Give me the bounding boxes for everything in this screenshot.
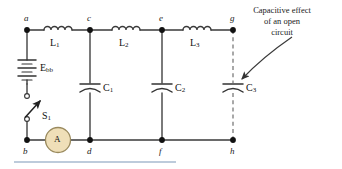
annotation-line-2: of an open <box>222 16 342 27</box>
capacitor-C1-name: C <box>103 82 110 93</box>
inductor-L1-coil <box>44 27 72 30</box>
battery-symbol-Ebb <box>18 60 36 84</box>
node-dot-a <box>24 27 30 33</box>
inductor-L3-sub: 3 <box>196 41 200 49</box>
node-dot-e <box>159 27 165 33</box>
source-sub: bb <box>46 66 53 74</box>
node-label-c: c <box>87 14 91 23</box>
node-label-b: b <box>23 147 28 156</box>
inductor-L1-sub: 1 <box>56 41 60 49</box>
node-dot-d <box>87 137 93 143</box>
capacitor-label-C1: C1 <box>103 83 113 94</box>
switch-sub: 1 <box>48 114 52 122</box>
capacitor-C2-sub: 2 <box>182 86 186 94</box>
capacitor-C3-sub: 3 <box>253 86 257 94</box>
switch-S1-symbol <box>25 94 40 122</box>
capacitor-C1-symbol <box>80 84 100 92</box>
node-dot-f <box>159 137 165 143</box>
capacitor-C3-name: C <box>246 82 253 93</box>
node-label-d: d <box>87 147 92 156</box>
capacitor-C1-sub: 1 <box>110 86 114 94</box>
node-label-e: e <box>159 14 163 23</box>
inductor-label-L2: L2 <box>119 38 129 49</box>
inductor-L3-coil <box>183 27 211 30</box>
node-label-a: a <box>24 14 29 23</box>
node-label-h: h <box>230 147 235 156</box>
switch-label-S1: S1 <box>42 111 51 122</box>
node-dot-b <box>24 137 30 143</box>
capacitor-C2-name: C <box>175 82 182 93</box>
capacitor-label-C3: C3 <box>246 83 256 94</box>
inductor-L2-coil <box>112 27 140 30</box>
node-dot-c <box>87 27 93 33</box>
circuit-diagram-figure: a c e g b d f h L1 L2 L3 C1 C2 C3 Ebb S1… <box>0 0 342 169</box>
annotation-text: Capacitive effect of an open circuit <box>222 5 342 39</box>
annotation-line-1: Capacitive effect <box>222 5 342 16</box>
inductor-label-L3: L3 <box>190 38 200 49</box>
annotation-pointer-arrow <box>242 37 292 79</box>
node-label-f: f <box>159 147 162 156</box>
inductor-label-L1: L1 <box>50 38 60 49</box>
source-label-Ebb: Ebb <box>40 63 53 74</box>
capacitor-label-C2: C2 <box>175 83 185 94</box>
ammeter-label: A <box>54 135 61 144</box>
inductor-L2-sub: 2 <box>125 41 129 49</box>
capacitor-C2-symbol <box>152 84 172 92</box>
node-dot-h <box>230 137 236 143</box>
capacitor-C3-symbol <box>223 84 243 92</box>
annotation-line-3: circuit <box>222 27 342 38</box>
